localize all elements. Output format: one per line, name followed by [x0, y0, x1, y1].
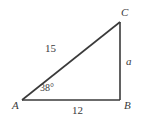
- triangle-drawing: [0, 0, 144, 120]
- vertex-label-b: B: [124, 100, 131, 111]
- side-label-base: 12: [72, 105, 83, 116]
- side-label-hypotenuse: 15: [45, 43, 56, 54]
- vertex-label-a: A: [12, 100, 19, 111]
- angle-label-a: 38°: [40, 83, 54, 93]
- side-label-vertical: a: [126, 56, 132, 67]
- triangle-figure: A B C 15 a 12 38°: [0, 0, 144, 120]
- vertex-label-c: C: [121, 7, 128, 18]
- triangle-side-hypotenuse: [22, 22, 120, 100]
